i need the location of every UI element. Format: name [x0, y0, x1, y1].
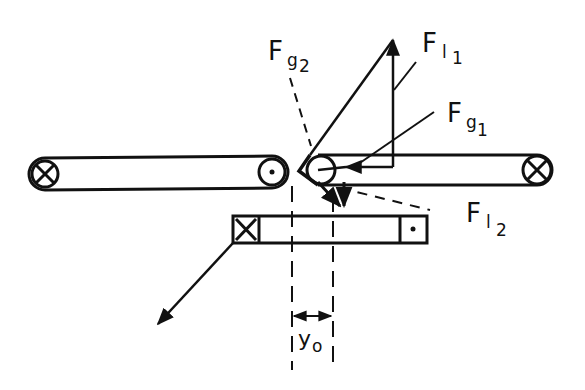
- svg-text:y: y: [298, 326, 311, 351]
- svg-text:F: F: [268, 36, 283, 66]
- force-diagram: F g 2 F l 1 F g 1 F l 2 y o: [0, 0, 585, 390]
- label-fg2: F g 2: [268, 36, 310, 76]
- svg-text:F: F: [466, 198, 481, 228]
- svg-text:g: g: [287, 50, 298, 70]
- label-fg1: F g 1: [447, 98, 488, 140]
- right-belt: [307, 155, 552, 185]
- svg-text:o: o: [312, 336, 322, 356]
- label-y0: y o: [298, 326, 322, 356]
- left-belt: [29, 156, 288, 190]
- svg-text:2: 2: [299, 56, 310, 76]
- force-triangle: [310, 40, 393, 170]
- leader-fl2: [340, 188, 430, 210]
- svg-text:1: 1: [477, 120, 488, 140]
- cross-roller-icon: [523, 156, 551, 184]
- dot-roller-icon: [259, 159, 285, 185]
- svg-text:l: l: [486, 212, 491, 232]
- cross-roller-icon: [32, 161, 58, 187]
- label-fl1: F l 1: [422, 28, 463, 68]
- svg-text:2: 2: [496, 220, 507, 240]
- svg-text:F: F: [422, 28, 437, 58]
- svg-text:l: l: [442, 42, 447, 62]
- svg-text:F: F: [447, 98, 462, 128]
- leader-fg2: [290, 78, 311, 146]
- dot-icon: [411, 227, 416, 232]
- leader-fl1: [394, 62, 416, 90]
- resultant-arrow: [158, 243, 233, 324]
- lower-bar: [233, 216, 427, 243]
- cross-box-icon: [236, 219, 256, 240]
- svg-text:1: 1: [452, 48, 463, 68]
- svg-text:g: g: [466, 112, 477, 132]
- label-fl2: F l 2: [466, 198, 507, 240]
